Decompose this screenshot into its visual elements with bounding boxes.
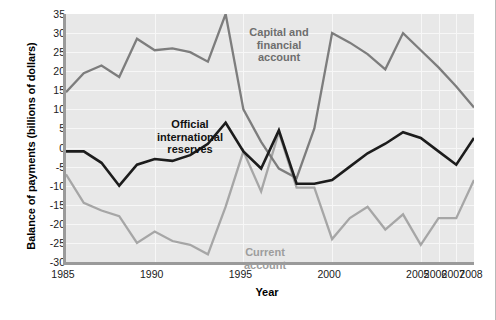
x-tick-2008: 2008	[441, 268, 496, 280]
y-tick-neg5: -5	[25, 162, 65, 172]
y-tick-neg20: -20	[25, 219, 65, 229]
x-tick-1990: 1990	[122, 268, 182, 280]
y-tick-20: 20	[25, 66, 65, 76]
y-tick-0: 0	[25, 143, 65, 153]
x-axis-title: Year	[63, 286, 471, 298]
plot-area: Capital and financial account Official i…	[63, 14, 474, 265]
y-tick-10: 10	[25, 104, 65, 114]
annotation-capital-and-financial-account: Capital and financial account	[231, 26, 327, 64]
y-tick-25: 25	[25, 47, 65, 57]
y-tick-35: 35	[25, 9, 65, 19]
y-tick-neg15: -15	[25, 200, 65, 210]
y-tick-neg25: -25	[25, 238, 65, 248]
y-tick-15: 15	[25, 85, 65, 95]
y-tick-neg30: -30	[25, 257, 65, 267]
x-tick-1985: 1985	[33, 268, 93, 280]
y-tick-5: 5	[25, 123, 65, 133]
y-tick-neg10: -10	[25, 181, 65, 191]
chart-figure: Balance of payments (billions of dollars…	[0, 0, 496, 320]
annotation-official-international-reserves: Official international reserves	[134, 118, 246, 156]
x-tick-1995: 1995	[210, 268, 270, 280]
x-tick-2000: 2000	[299, 268, 359, 280]
y-tick-30: 30	[25, 28, 65, 38]
figure-caption	[2, 309, 472, 320]
